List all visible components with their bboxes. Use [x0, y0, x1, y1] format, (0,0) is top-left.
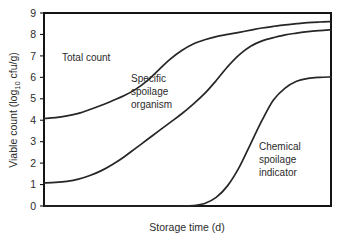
y-tick-label: 5 [30, 92, 36, 104]
svg-text:spoilage: spoilage [131, 86, 169, 97]
y-tick-label: 9 [30, 7, 36, 19]
y-tick-label: 0 [30, 200, 36, 212]
y-tick-label: 1 [30, 178, 36, 190]
annotation-total-count: Total count [62, 52, 111, 63]
chart-svg: 0123456789 Viable count (log10 cfu/g) St… [0, 0, 346, 247]
y-tick-label: 8 [30, 28, 36, 40]
chart-figure: 0123456789 Viable count (log10 cfu/g) St… [0, 0, 346, 247]
svg-text:spoilage: spoilage [259, 154, 297, 165]
chart-background [0, 0, 346, 247]
svg-text:indicator: indicator [259, 167, 297, 178]
svg-text:organism: organism [131, 99, 172, 110]
y-tick-label: 4 [30, 114, 36, 126]
annotation-specific-spoilage-organism: Specific spoilage organism [131, 73, 172, 110]
y-tick-label: 6 [30, 71, 36, 83]
svg-text:Chemical: Chemical [259, 141, 301, 152]
y-tick-label: 7 [30, 50, 36, 62]
svg-text:Specific: Specific [131, 73, 166, 84]
x-axis-title: Storage time (d) [149, 221, 224, 233]
annotation-chemical-spoilage-indicator: Chemical spoilage indicator [259, 141, 301, 178]
y-tick-label: 3 [30, 135, 36, 147]
y-tick-label: 2 [30, 157, 36, 169]
